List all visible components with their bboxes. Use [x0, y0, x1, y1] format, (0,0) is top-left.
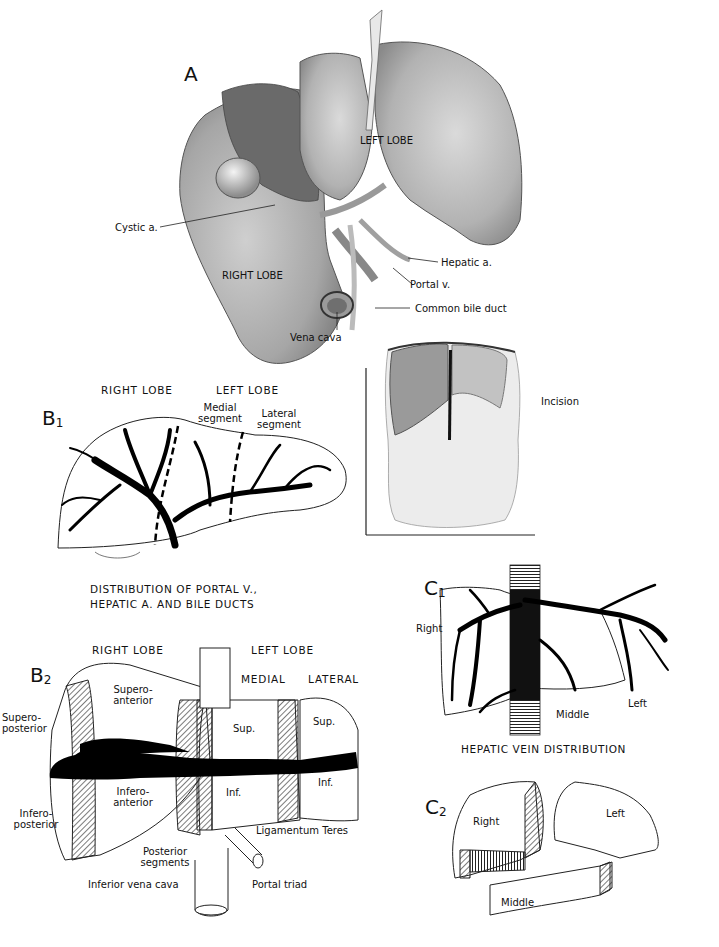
b2-label-ligamentum-teres: Ligamentum Teres: [256, 825, 348, 836]
b2-header-lateral: LATERAL: [308, 673, 359, 685]
b2-label-supero-posterior: Supero-posterior: [2, 712, 47, 734]
b2-header-left-lobe: LEFT LOBE: [251, 644, 314, 656]
c1-label-middle: Middle: [556, 709, 589, 720]
b2-label-inf-medial: Inf.: [226, 787, 241, 798]
b1-caption-line-2: HEPATIC A. AND BILE DUCTS: [90, 598, 254, 610]
label-portal-vein: Portal v.: [410, 279, 450, 290]
b2-label-posterior-segments: Posteriorsegments: [138, 846, 192, 868]
panel-a-label: A: [184, 62, 198, 86]
label-right-lobe: RIGHT LOBE: [222, 270, 283, 281]
b2-label-inf-lateral: Inf.: [318, 777, 333, 788]
panel-c1-label: C1: [424, 576, 446, 600]
label-cystic-artery: Cystic a.: [115, 222, 158, 233]
b1-label-lateral-segment: Lateralsegment: [252, 408, 306, 430]
panel-c2-label: C2: [425, 795, 447, 819]
c1-caption: HEPATIC VEIN DISTRIBUTION: [461, 743, 626, 755]
label-vena-cava: Vena cava: [290, 332, 342, 343]
label-hepatic-artery: Hepatic a.: [441, 257, 492, 268]
b2-label-infero-anterior: Infero-anterior: [108, 786, 158, 808]
panel-b1-label: B1: [42, 406, 63, 430]
b2-label-infero-posterior: Infero-posterior: [12, 808, 60, 830]
label-left-lobe: LEFT LOBE: [360, 135, 413, 146]
b1-label-medial-segment: Medialsegment: [192, 402, 248, 424]
panel-b1-portal-tree: [58, 417, 346, 558]
panel-c1-hepatic-veins: [440, 565, 668, 735]
b1-header-right-lobe: RIGHT LOBE: [101, 384, 173, 396]
torso-incision-inset: [366, 343, 535, 535]
label-incision: Incision: [541, 396, 579, 407]
b1-caption-line-1: DISTRIBUTION OF PORTAL V.,: [90, 583, 257, 595]
c1-label-left: Left: [628, 698, 647, 709]
b2-label-portal-triad: Portal triad: [252, 879, 307, 890]
panel-b2-segments: [50, 648, 358, 916]
c2-label-middle: Middle: [501, 897, 534, 908]
panel-c2-lobes: [453, 782, 659, 915]
c2-label-left: Left: [606, 808, 625, 819]
b2-label-sup-medial: Sup.: [233, 723, 255, 734]
c2-label-right: Right: [473, 816, 499, 827]
panel-b2-label: B2: [30, 663, 51, 687]
label-common-bile-duct: Common bile duct: [415, 303, 507, 314]
b2-label-supero-anterior: Supero-anterior: [108, 684, 158, 706]
b2-header-medial: MEDIAL: [241, 673, 286, 685]
c1-label-right: Right: [416, 623, 442, 634]
b2-label-inferior-vena-cava: Inferior vena cava: [88, 879, 179, 890]
b2-label-sup-lateral: Sup.: [313, 716, 335, 727]
b2-header-right-lobe: RIGHT LOBE: [92, 644, 164, 656]
b1-header-left-lobe: LEFT LOBE: [216, 384, 279, 396]
